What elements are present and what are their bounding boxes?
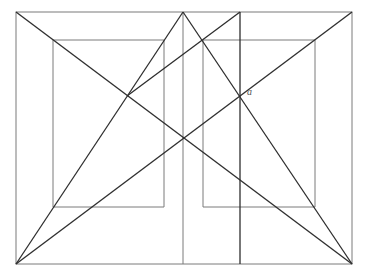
apex-to-bottom-right-line bbox=[183, 12, 352, 264]
apex-to-bottom-left-line bbox=[16, 12, 183, 264]
geometric-diagram bbox=[0, 0, 365, 275]
inner-right-rectangle bbox=[203, 40, 315, 207]
point-label-a: a bbox=[247, 86, 252, 97]
